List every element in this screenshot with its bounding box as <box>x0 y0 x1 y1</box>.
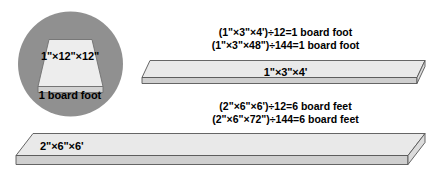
board-1-front-edge <box>142 78 417 84</box>
inset-board-top-face <box>38 40 103 87</box>
board-2-equation-line-2: (2"×6"×72")÷144=6 board feet <box>143 113 428 126</box>
board-2-front-edge <box>16 156 408 165</box>
board-2-equations: (2"×6"×6')÷12=6 board feet (2"×6"×72")÷1… <box>143 100 428 126</box>
inset-board-dimension-label: 1"×12"×12" <box>0 50 140 62</box>
board-1-dimension-label: 1"×3"×4' <box>143 66 428 78</box>
board-1-equations: (1"×3"×4')÷12=1 board foot (1"×3"×48")÷1… <box>143 26 428 52</box>
board-1-equation-line-2: (1"×3"×48")÷144=1 board foot <box>143 39 428 52</box>
board-2-dimension-label: 2"×6"×6' <box>40 140 240 152</box>
board-1-equation-line-1: (1"×3"×4')÷12=1 board foot <box>143 26 428 39</box>
board-foot-diagram: 1"×12"×12" 1 board foot (1"×3"×4')÷12=1 … <box>0 0 439 175</box>
inset-caption: 1 board foot <box>0 89 140 101</box>
board-2-equation-line-1: (2"×6"×6')÷12=6 board feet <box>143 100 428 113</box>
